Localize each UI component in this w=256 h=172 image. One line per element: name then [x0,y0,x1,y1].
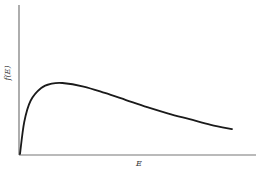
x-axis-label: E [135,159,142,168]
plot-area: E f(E) [0,0,256,172]
chart: E f(E) [0,0,256,172]
distribution-curve [20,83,232,154]
y-axis-label: f(E) [3,65,12,81]
